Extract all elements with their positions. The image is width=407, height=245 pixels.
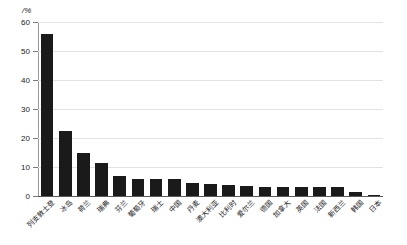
y-tick-label: 30 — [0, 105, 30, 114]
bar-chart: /% 0102030405060 列支敦士登冰岛荷兰瑞典芬兰葡萄牙瑞士中国丹麦澳… — [0, 0, 407, 245]
bar — [41, 34, 54, 196]
gridline — [38, 22, 383, 23]
x-tick-label: 德国 — [259, 199, 274, 214]
x-tick-label: 列支敦士登 — [26, 199, 56, 229]
gridline — [38, 138, 383, 139]
bar — [240, 186, 253, 196]
x-tick-label: 日本 — [368, 199, 383, 214]
bar — [277, 187, 290, 196]
x-tick-label: 英国 — [295, 199, 310, 214]
bar — [132, 179, 145, 196]
x-tick-label: 冰岛 — [59, 199, 74, 214]
y-tick-mark — [33, 22, 38, 23]
x-tick-label: 芬兰 — [114, 199, 129, 214]
y-tick-mark — [33, 51, 38, 52]
y-tick-label: 60 — [0, 18, 30, 27]
x-tick-label: 中国 — [168, 199, 183, 214]
gridline — [38, 109, 383, 110]
bar — [349, 192, 362, 196]
bar — [222, 185, 235, 196]
x-tick-label: 新西兰 — [327, 199, 347, 219]
bar — [259, 187, 272, 196]
x-tick-label: 瑞典 — [96, 199, 111, 214]
x-tick-label: 瑞士 — [150, 199, 165, 214]
x-tick-label: 韩国 — [350, 199, 365, 214]
gridline — [38, 167, 383, 168]
bar — [77, 153, 90, 197]
y-tick-mark — [33, 80, 38, 81]
bar — [95, 163, 108, 196]
y-tick-label: 50 — [0, 47, 30, 56]
bar — [204, 184, 217, 196]
gridline — [38, 80, 383, 81]
y-tick-label: 10 — [0, 163, 30, 172]
x-tick-label: 葡萄牙 — [127, 199, 147, 219]
y-tick-label: 40 — [0, 76, 30, 85]
bar — [368, 195, 381, 196]
x-tick-label: 丹麦 — [186, 199, 201, 214]
bar — [331, 187, 344, 196]
x-tick-label: 比利时 — [218, 199, 238, 219]
bar — [113, 176, 126, 196]
x-tick-label: 加拿大 — [272, 199, 292, 219]
y-axis-unit-label: /% — [22, 6, 31, 15]
x-axis-line — [38, 196, 383, 197]
bar — [150, 179, 163, 196]
y-tick-label: 0 — [0, 192, 30, 201]
y-tick-mark — [33, 138, 38, 139]
y-tick-mark — [33, 109, 38, 110]
bar — [313, 187, 326, 196]
gridline — [38, 51, 383, 52]
plot-area — [38, 22, 383, 196]
y-tick-label: 20 — [0, 134, 30, 143]
bar — [186, 183, 199, 196]
bar — [295, 187, 308, 196]
x-tick-label: 法国 — [314, 199, 329, 214]
y-tick-mark — [33, 167, 38, 168]
bar — [168, 179, 181, 196]
x-tick-label: 爱尔兰 — [236, 199, 256, 219]
x-tick-label: 荷兰 — [77, 199, 92, 214]
bar — [59, 131, 72, 196]
y-tick-mark — [33, 196, 38, 197]
